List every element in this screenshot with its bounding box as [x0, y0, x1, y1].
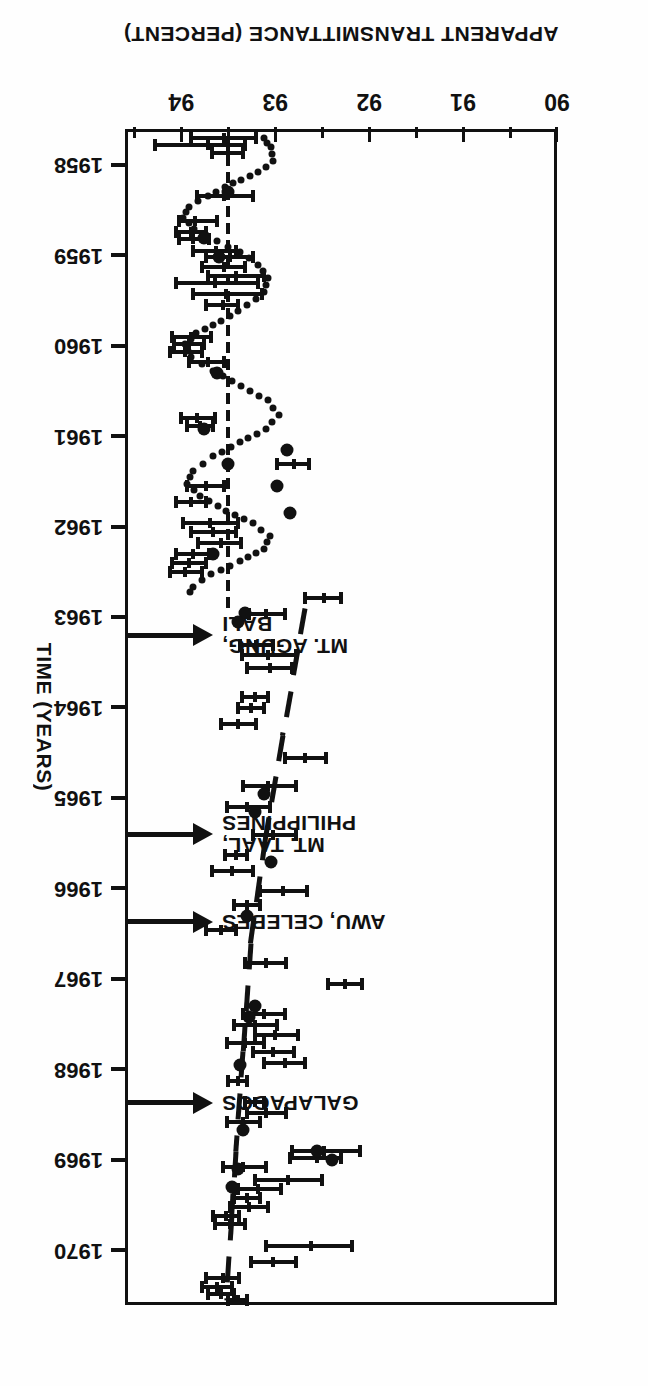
seasonal-curve-dot: [262, 426, 269, 433]
error-bar: [228, 1205, 269, 1209]
reference-line-dash: [226, 427, 230, 438]
seasonal-curve-dot: [255, 261, 262, 268]
error-bar-center: [303, 753, 307, 763]
x-axis-tick-label-91: 91: [450, 88, 476, 115]
error-bar-center: [211, 527, 215, 537]
error-bar: [219, 722, 258, 726]
y-axis-tick-1962: [111, 525, 126, 529]
y-axis-tick-label-1967: 1967: [54, 966, 103, 992]
error-bar-center: [281, 886, 285, 896]
error-bar: [232, 903, 262, 907]
seasonal-curve-dot: [245, 434, 252, 441]
error-bar-center: [187, 339, 191, 349]
annotation-label-line1: MT. TAAL,: [222, 834, 356, 856]
error-bar: [189, 530, 238, 534]
error-bar-center: [221, 300, 225, 310]
seasonal-curve-dot: [236, 439, 243, 446]
reference-line-dash: [226, 342, 230, 353]
seasonal-curve-dot: [219, 448, 226, 455]
error-bar-center: [191, 234, 195, 244]
error-bar: [240, 695, 270, 699]
error-bar-center: [183, 347, 187, 357]
seasonal-curve-dot: [238, 176, 245, 183]
error-bar-center: [243, 1038, 247, 1048]
seasonal-curve-dot: [240, 516, 247, 523]
y-axis-tick-label-1970: 1970: [54, 1238, 103, 1264]
error-bar: [170, 561, 208, 565]
error-bar: [174, 281, 260, 285]
reference-line-dash: [226, 393, 230, 404]
error-bar: [236, 1187, 283, 1191]
error-bar-center: [247, 1202, 251, 1212]
error-bar: [189, 136, 258, 140]
annotation-label: MT. TAAL,PHILIPPINES: [222, 812, 356, 856]
observation-dot: [197, 423, 210, 436]
y-axis-tick-label-1958: 1958: [54, 152, 103, 178]
error-bar-center: [230, 866, 234, 876]
error-bar-center: [268, 663, 272, 673]
y-axis-tick-label-1965: 1965: [54, 785, 103, 811]
x-axis-tick-label-93: 93: [262, 88, 288, 115]
error-bar-center: [219, 538, 223, 548]
y-axis-tick-label-1964: 1964: [54, 695, 103, 721]
observation-dot: [197, 231, 210, 244]
plot-frame: [125, 129, 557, 1305]
error-bar: [213, 1222, 247, 1226]
error-bar: [326, 982, 364, 986]
observation-dot: [242, 1011, 255, 1024]
error-bar: [177, 219, 219, 223]
seasonal-curve-dot: [208, 571, 215, 578]
error-bar: [170, 335, 213, 339]
error-bar: [204, 303, 240, 307]
seasonal-curve-dot: [223, 507, 230, 514]
observation-dot: [211, 367, 224, 380]
error-bar-center: [204, 481, 208, 491]
reference-line-dash: [226, 223, 230, 234]
seasonal-curve-dot: [209, 322, 216, 329]
error-bar: [226, 1298, 249, 1302]
reference-line-dash: [226, 478, 230, 489]
seasonal-curve-dot: [254, 430, 261, 437]
y-axis-tick-1961: [111, 434, 126, 438]
annotation-awu-celebes: AWU, CELEBES: [127, 911, 398, 933]
x-axis-minor-tick: [415, 127, 418, 138]
error-bar: [206, 1292, 236, 1296]
seasonal-curve-dot: [255, 392, 262, 399]
y-axis-tick-label-1962: 1962: [54, 514, 103, 540]
seasonal-curve-dot: [227, 443, 234, 450]
error-bar: [275, 462, 311, 466]
error-bar: [153, 143, 247, 147]
reference-line-dash: [226, 359, 230, 370]
figure-canvas: 9091929394195819591960196119621963196419…: [0, 0, 648, 1386]
seasonal-curve-dot: [258, 526, 265, 533]
y-axis-tick-1968: [111, 1067, 126, 1071]
seasonal-curve-dot: [255, 169, 262, 176]
error-bar: [283, 756, 328, 760]
observation-dot: [226, 1181, 239, 1194]
seasonal-curve-dot: [249, 520, 256, 527]
error-bar-center: [249, 703, 253, 713]
observation-dot: [271, 480, 284, 493]
error-bar-center: [236, 1295, 240, 1305]
error-bar: [245, 666, 294, 670]
error-bar: [253, 1178, 324, 1182]
error-bar-center: [219, 1289, 223, 1299]
y-axis-tick-1960: [111, 344, 126, 348]
y-axis-tick-label-1966: 1966: [54, 876, 103, 902]
annotation-arrow-line: [127, 633, 193, 638]
observation-dot: [222, 457, 235, 470]
error-bar-center: [187, 558, 191, 568]
error-bar-center: [193, 216, 197, 226]
seasonal-curve-dot: [199, 460, 206, 467]
x-axis-tick-94: [180, 127, 183, 142]
error-bar-center: [236, 1076, 240, 1086]
annotation-label-line2: PHILIPPINES: [222, 812, 356, 834]
annotation-arrow-line: [127, 832, 193, 837]
y-axis-tick-1970: [111, 1248, 126, 1252]
seasonal-curve-dot: [186, 589, 193, 596]
seasonal-curve-dot: [246, 173, 253, 180]
y-axis-tick-label-1969: 1969: [54, 1147, 103, 1173]
annotation-mt-taal-philippines: MT. TAAL,PHILIPPINES: [127, 812, 398, 856]
error-bar-center: [271, 1257, 275, 1267]
error-bar-center: [286, 1175, 290, 1185]
